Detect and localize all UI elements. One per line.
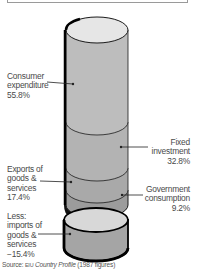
segment-consumer xyxy=(66,30,128,135)
label-government: Government consumption 9.2% xyxy=(145,185,190,213)
label-imports: Less: imports of goods & services −15.4% xyxy=(7,212,42,259)
imports-top xyxy=(64,208,128,232)
label-fixed-investment: Fixed investment 32.8% xyxy=(152,138,191,166)
label-exports: Exports of goods & services 17.4% xyxy=(7,165,43,203)
source-note: Source: EIU Country Profile (1987 figure… xyxy=(2,261,115,268)
label-consumer: Consumer expenditure 55.8% xyxy=(7,72,49,100)
